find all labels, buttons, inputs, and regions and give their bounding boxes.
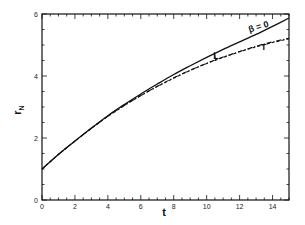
x-tick-label: 0 (40, 203, 44, 210)
series-0 (42, 18, 289, 169)
y-tick-label: 2 (34, 135, 38, 142)
y-tick-label: 6 (34, 11, 38, 18)
axis-tick-labels: 024681012140246 (34, 11, 276, 211)
annotation-t: T (261, 42, 267, 52)
y-tick-label: 0 (34, 197, 38, 204)
curve-annotations: β = 0 L T (213, 19, 270, 61)
data-series (42, 18, 289, 169)
y-axis-title: rN (11, 105, 25, 114)
x-tick-label: 6 (139, 203, 143, 210)
x-tick-label: 10 (203, 203, 211, 210)
annotation-beta-zero: β = 0 (247, 19, 270, 35)
axis-ticks (42, 14, 289, 200)
x-tick-label: 4 (106, 203, 110, 210)
x-tick-label: 12 (236, 203, 244, 210)
plot-frame (42, 14, 289, 200)
series-t (42, 38, 289, 169)
x-tick-label: 14 (269, 203, 277, 210)
x-axis-title: t (162, 206, 166, 218)
line-chart: 024681012140246 β = 0 L T t rN (0, 0, 305, 225)
x-tick-label: 8 (172, 203, 176, 210)
y-axis-title-subscript: N (18, 105, 25, 110)
svg-text:rN: rN (11, 105, 25, 114)
plot-border (42, 14, 289, 200)
x-tick-label: 2 (73, 203, 77, 210)
series-l (42, 39, 289, 169)
y-tick-label: 4 (34, 73, 38, 80)
